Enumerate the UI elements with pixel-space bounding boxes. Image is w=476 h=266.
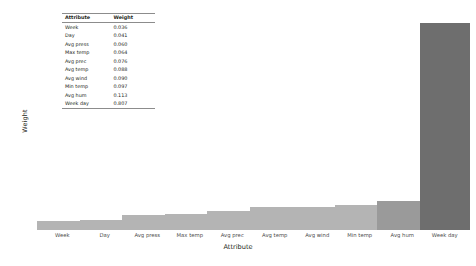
table-row: Max temp0.064 xyxy=(62,49,155,57)
cell-attribute: Avg wind xyxy=(62,74,113,82)
cell-attribute: Avg prec xyxy=(62,57,113,65)
x-axis-tick: Avg hum xyxy=(381,232,424,242)
cell-weight: 0.036 xyxy=(113,23,155,32)
cell-attribute: Avg temp xyxy=(62,66,113,74)
x-axis-tick: Week xyxy=(41,232,84,242)
x-axis-tick: Avg wind xyxy=(296,232,339,242)
bar-slot xyxy=(424,12,467,230)
column-header-attribute: Attribute xyxy=(62,14,113,23)
bar-slot xyxy=(381,12,424,230)
table-row: Day0.041 xyxy=(62,32,155,40)
table-header: Attribute Weight xyxy=(62,14,155,23)
x-axis-tick-labels: WeekDayAvg pressMax tempAvg precAvg temp… xyxy=(41,232,466,242)
table-body: Week0.036Day0.041Avg press0.060Max temp0… xyxy=(62,23,155,109)
cell-weight: 0.088 xyxy=(113,66,155,74)
x-axis-tick: Avg press xyxy=(126,232,169,242)
cell-attribute: Week day xyxy=(62,100,113,109)
table-row: Avg temp0.088 xyxy=(62,66,155,74)
cell-weight: 0.076 xyxy=(113,57,155,65)
cell-weight: 0.060 xyxy=(113,40,155,48)
table-row: Avg hum0.113 xyxy=(62,91,155,99)
x-axis-label: Attribute xyxy=(0,243,476,251)
bar-slot xyxy=(211,12,254,230)
cell-weight: 0.097 xyxy=(113,83,155,91)
cell-attribute: Week xyxy=(62,23,113,32)
x-axis-tick: Day xyxy=(84,232,127,242)
bar-slot xyxy=(339,12,382,230)
y-axis-label: Weight xyxy=(21,109,29,132)
cell-attribute: Avg hum xyxy=(62,91,113,99)
table-row: Week0.036 xyxy=(62,23,155,32)
cell-weight: 0.807 xyxy=(113,100,155,109)
bar-chart-figure: 0.850.840.820.800.790.770.760.740.720.71… xyxy=(0,0,476,266)
x-axis-tick: Min temp xyxy=(339,232,382,242)
cell-weight: 0.041 xyxy=(113,32,155,40)
x-axis-tick: Week day xyxy=(424,232,467,242)
x-axis-tick: Avg prec xyxy=(211,232,254,242)
x-axis-tick: Avg temp xyxy=(254,232,297,242)
table-row: Avg press0.060 xyxy=(62,40,155,48)
cell-attribute: Avg press xyxy=(62,40,113,48)
table-row: Avg prec0.076 xyxy=(62,57,155,65)
bar-slot xyxy=(254,12,297,230)
x-axis-tick: Max temp xyxy=(169,232,212,242)
cell-weight: 0.064 xyxy=(113,49,155,57)
cell-attribute: Min temp xyxy=(62,83,113,91)
table-row: Week day0.807 xyxy=(62,100,155,109)
cell-weight: 0.113 xyxy=(113,91,155,99)
column-header-weight: Weight xyxy=(113,14,155,23)
table-row: Min temp0.097 xyxy=(62,83,155,91)
cell-weight: 0.090 xyxy=(113,74,155,82)
table-header-row: Attribute Weight xyxy=(62,14,155,23)
weights-summary-table: Attribute Weight Week0.036Day0.041Avg pr… xyxy=(62,13,155,109)
cell-attribute: Day xyxy=(62,32,113,40)
bar-slot xyxy=(169,12,212,230)
bar-slot xyxy=(296,12,339,230)
bar[interactable] xyxy=(420,23,470,230)
cell-attribute: Max temp xyxy=(62,49,113,57)
table-row: Avg wind0.090 xyxy=(62,74,155,82)
